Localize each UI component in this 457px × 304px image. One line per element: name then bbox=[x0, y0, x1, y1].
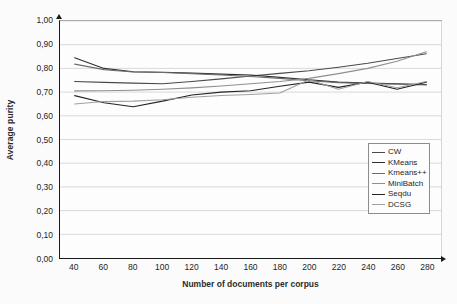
y-axis-tick-label: 1,00 bbox=[36, 15, 53, 25]
x-axis-tick-label: 260 bbox=[391, 262, 405, 272]
x-axis-tick-label: 200 bbox=[302, 262, 316, 272]
legend-item-label: KMeans bbox=[388, 158, 417, 168]
legend-item: KMeans bbox=[369, 158, 429, 169]
plot-area bbox=[59, 20, 442, 259]
y-axis-tick-label: 0,70 bbox=[36, 87, 53, 97]
x-axis-tick-label: 220 bbox=[332, 262, 346, 272]
legend-item: CW bbox=[369, 147, 429, 158]
x-axis-tick-label: 240 bbox=[361, 262, 375, 272]
y-axis-tick-label: 0,40 bbox=[36, 158, 53, 168]
x-axis-tick-label: 60 bbox=[98, 262, 107, 272]
x-axis-title: Number of documents per corpus bbox=[59, 279, 442, 289]
legend-swatch-icon bbox=[372, 152, 385, 153]
plot-lines bbox=[60, 21, 441, 258]
x-axis-arrow-icon bbox=[441, 256, 446, 262]
legend-swatch-icon bbox=[372, 204, 385, 205]
x-axis-tick-labels: 406080100120140160180200220240260280 bbox=[59, 262, 442, 276]
y-axis-tick-label: 0,00 bbox=[36, 254, 53, 264]
y-axis-tick-label: 0,30 bbox=[36, 182, 53, 192]
y-axis-title: Average purity bbox=[2, 0, 18, 259]
legend-swatch-icon bbox=[372, 162, 385, 163]
y-axis-arrow-icon bbox=[56, 14, 62, 19]
legend-item: MiniBatch bbox=[369, 179, 429, 190]
x-axis-tick-label: 120 bbox=[184, 262, 198, 272]
x-axis-tick-label: 100 bbox=[155, 262, 169, 272]
legend-item-label: Seqdu bbox=[388, 189, 411, 199]
chart-container: Average purity 0,000,100,200,300,400,500… bbox=[0, 0, 457, 304]
y-axis-tick-label: 0,20 bbox=[36, 206, 53, 216]
legend-item-label: CW bbox=[388, 147, 401, 157]
x-axis-tick-label: 160 bbox=[243, 262, 257, 272]
legend-item-label: MiniBatch bbox=[388, 179, 423, 189]
y-axis-tick-label: 0,90 bbox=[36, 39, 53, 49]
legend-swatch-icon bbox=[372, 173, 385, 174]
y-axis-tick-label: 0,50 bbox=[36, 135, 53, 145]
y-axis-tick-label: 0,80 bbox=[36, 63, 53, 73]
legend-swatch-icon bbox=[372, 183, 385, 184]
legend-item: Seqdu bbox=[369, 189, 429, 200]
legend-item: DCSG bbox=[369, 200, 429, 211]
y-axis-tick-label: 0,10 bbox=[36, 230, 53, 240]
legend-item-label: DCSG bbox=[388, 200, 411, 210]
y-axis-tick-labels: 0,000,100,200,300,400,500,600,700,800,90… bbox=[18, 0, 56, 270]
chart-legend: CWKMeansKmeans++MiniBatchSeqduDCSG bbox=[368, 143, 430, 214]
x-axis-tick-label: 80 bbox=[128, 262, 137, 272]
legend-swatch-icon bbox=[372, 194, 385, 195]
x-axis-tick-label: 180 bbox=[273, 262, 287, 272]
legend-item: Kmeans++ bbox=[369, 168, 429, 179]
x-axis-tick-label: 140 bbox=[214, 262, 228, 272]
y-axis-tick-label: 0,60 bbox=[36, 111, 53, 121]
y-axis-title-label: Average purity bbox=[5, 99, 15, 160]
series-line-cw bbox=[75, 54, 427, 84]
x-axis-tick-label: 40 bbox=[69, 262, 78, 272]
legend-item-label: Kmeans++ bbox=[388, 168, 427, 178]
x-axis-tick-label: 280 bbox=[420, 262, 434, 272]
